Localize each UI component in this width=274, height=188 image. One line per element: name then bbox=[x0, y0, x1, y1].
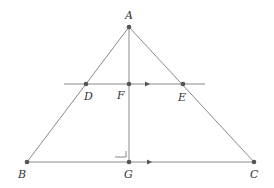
point-b bbox=[25, 160, 30, 165]
label-e: E bbox=[177, 91, 186, 104]
point-g bbox=[127, 160, 132, 165]
right-angle-icon bbox=[115, 151, 126, 157]
label-g: G bbox=[124, 168, 133, 181]
label-a: A bbox=[124, 9, 133, 22]
segment-ac bbox=[129, 27, 254, 162]
segment-ab bbox=[27, 27, 129, 162]
point-f bbox=[127, 82, 132, 87]
label-f: F bbox=[116, 89, 125, 102]
triangle-diagram: A B C D F E G bbox=[0, 0, 274, 188]
label-c: C bbox=[250, 168, 259, 181]
parallel-arrow-icon bbox=[147, 160, 152, 165]
point-c bbox=[252, 160, 257, 165]
point-a bbox=[127, 25, 132, 30]
parallel-arrow-icon bbox=[145, 82, 150, 87]
point-e bbox=[181, 82, 186, 87]
label-d: D bbox=[83, 90, 93, 103]
point-d bbox=[84, 82, 89, 87]
label-b: B bbox=[17, 168, 26, 181]
